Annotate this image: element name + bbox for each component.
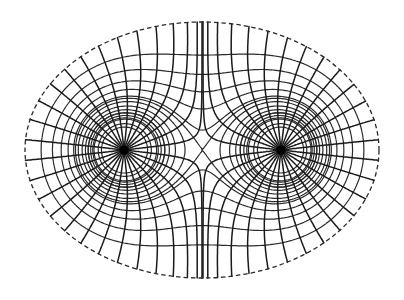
field-diagram-canvas bbox=[0, 0, 404, 300]
field-line bbox=[99, 46, 125, 150]
field-line bbox=[281, 150, 306, 253]
left-charge-dot bbox=[120, 146, 129, 155]
field-line bbox=[124, 24, 174, 150]
field-line bbox=[124, 150, 174, 276]
field-line bbox=[124, 22, 188, 150]
field-line bbox=[124, 150, 197, 278]
field-line bbox=[217, 150, 281, 278]
field-line bbox=[231, 24, 281, 150]
field-line bbox=[208, 150, 281, 278]
equipotential-line bbox=[76, 98, 330, 201]
right-charge-dot bbox=[277, 146, 286, 155]
field-line bbox=[217, 23, 281, 151]
field-line bbox=[281, 47, 306, 150]
field-line bbox=[99, 150, 125, 254]
field-line bbox=[124, 150, 188, 278]
field-line bbox=[231, 150, 281, 276]
field-line bbox=[208, 22, 281, 150]
field-line bbox=[124, 22, 197, 150]
